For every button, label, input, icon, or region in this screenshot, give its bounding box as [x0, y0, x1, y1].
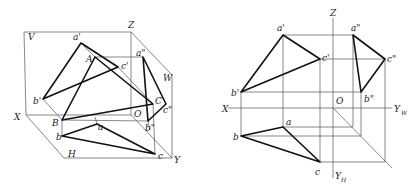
label-V: V	[28, 32, 36, 42]
right-unfolded-diagram: Z X O Y W Y H a' b' c' a b c a" b" c"	[221, 8, 408, 183]
label-YH-sub: H	[340, 176, 347, 183]
label-Y: Y	[174, 155, 181, 165]
label-C: C	[155, 96, 162, 106]
label-H: H	[67, 149, 76, 159]
projection-figure: V Z W X H Y O a' b' c' A B C a b c a" b"…	[0, 0, 415, 188]
label-Z-right: Z	[329, 8, 337, 18]
label-X-right: X	[221, 104, 229, 114]
label-c-right: c	[315, 167, 320, 177]
side-view-triangle-right	[353, 35, 385, 92]
label-b: b	[56, 132, 62, 142]
left-pictorial-diagram: V Z W X H Y O a' b' c' A B C a b c a" b"…	[13, 20, 181, 165]
label-c-dbl: c"	[163, 105, 172, 115]
label-a-prime: a'	[73, 32, 81, 42]
label-b-dbl-right: b"	[364, 94, 374, 104]
label-b-prime-right: b'	[231, 88, 239, 98]
top-view-triangle-right	[241, 127, 320, 162]
label-A: A	[85, 54, 93, 64]
label-a-prime-right: a'	[277, 23, 285, 33]
label-b-dbl: b"	[145, 123, 155, 133]
label-B: B	[51, 118, 59, 128]
label-c-prime: c'	[121, 61, 129, 71]
45-degree-line	[333, 108, 392, 168]
proj-line-Cc1	[118, 67, 153, 104]
label-YW: Y	[394, 104, 401, 114]
proj-line-Bb2	[62, 120, 148, 121]
label-a: a	[98, 122, 103, 132]
label-c-dbl-right: c"	[387, 54, 396, 64]
label-a-dbl: a"	[136, 48, 146, 58]
label-b-right: b	[233, 132, 239, 142]
label-O-right: O	[336, 96, 344, 106]
proj-line-Bb1	[43, 99, 62, 120]
front-view-triangle	[43, 43, 118, 99]
label-Z: Z	[127, 20, 135, 30]
label-O: O	[134, 109, 142, 119]
label-c-prime-right: c'	[322, 53, 330, 63]
label-W: W	[163, 73, 173, 83]
front-view-triangle-right	[241, 35, 320, 92]
label-c: c	[158, 151, 163, 161]
top-view-triangle	[62, 124, 155, 154]
label-b-prime: b'	[33, 96, 41, 106]
label-a-dbl-right: a"	[351, 23, 361, 33]
label-YW-sub: W	[401, 109, 408, 116]
label-a-right: a	[286, 117, 291, 127]
label-X: X	[13, 112, 21, 122]
